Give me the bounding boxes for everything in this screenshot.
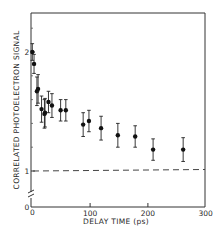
- y-tick-label: 1: [25, 167, 30, 176]
- data-point: [58, 100, 62, 121]
- data-point: [133, 126, 137, 147]
- data-point: [50, 94, 54, 118]
- data-point: [87, 110, 91, 131]
- data-point: [151, 139, 155, 160]
- axis-break-icon: [28, 190, 34, 197]
- data-point: [64, 100, 68, 121]
- data-point: [81, 113, 85, 137]
- reference-line-dashed: [33, 170, 205, 172]
- data-series: [30, 44, 185, 162]
- data-point: [46, 91, 50, 112]
- y-axis-title: CORRELATED PHOTOELECTRON SIGNAL: [12, 30, 21, 189]
- x-axis-title: DELAY TIME (ps): [83, 217, 149, 226]
- x-axis-ticks: 0100200300: [30, 203, 213, 218]
- chart: 0100200300 12 DELAY TIME (ps) CORRELATED…: [0, 0, 222, 240]
- data-point: [116, 123, 120, 147]
- y-origin-label: 0: [25, 203, 30, 212]
- x-tick-label: 300: [199, 209, 214, 218]
- data-point: [181, 138, 185, 162]
- y-tick-label: 2: [25, 48, 30, 57]
- x-tick-label: 0: [30, 208, 35, 217]
- data-point: [99, 116, 103, 140]
- plot-frame: [31, 13, 205, 207]
